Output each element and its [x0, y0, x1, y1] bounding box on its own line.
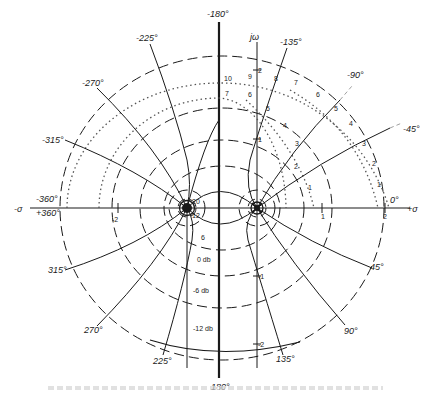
phase-contour-45	[257, 208, 372, 268]
svg-text:3: 3	[295, 140, 299, 147]
phase-label-neg45: -45°	[403, 124, 420, 134]
phase-label-neg90: -90°	[347, 70, 364, 80]
phase-contour-225	[163, 208, 193, 355]
ext-neg90	[340, 86, 352, 100]
phase-label-315: 315°	[48, 265, 67, 275]
svg-text:10: 10	[224, 75, 232, 82]
phase-label-pos360: +360°	[36, 208, 60, 218]
svg-text:7: 7	[225, 90, 229, 97]
ext-neg45	[390, 123, 402, 128]
mag-label-0db: 0 db	[197, 256, 211, 263]
real-tick-2: 2	[383, 213, 387, 220]
dotted-arc-inner	[99, 98, 286, 208]
phase-label-neg270: -270°	[82, 78, 104, 88]
svg-text:5: 5	[266, 105, 270, 112]
mag-label-neg12db: -12 db	[193, 325, 213, 332]
inner-dotted-scale-labels: 1 2 3 4 5 6 7	[225, 90, 312, 191]
sigma-pos-label: +σ	[407, 204, 418, 214]
phase-contour-neg90	[257, 100, 340, 208]
phase-label-0: 0°	[390, 195, 399, 205]
phase-contour-neg225	[150, 44, 190, 208]
phase-label-45: 45°	[370, 262, 384, 272]
dotted-scale-arcs	[67, 83, 389, 208]
real-tick-1: 1	[321, 213, 325, 220]
svg-text:2: 2	[294, 163, 298, 170]
imag-tick-1: 1	[258, 136, 262, 143]
jw-label: jω	[249, 32, 259, 42]
mag-label-neg6db: -6 db	[193, 287, 209, 294]
svg-text:8: 8	[274, 75, 278, 82]
svg-text:4: 4	[283, 122, 287, 129]
phase-label-neg135: -135°	[280, 37, 302, 47]
phase-label-neg360: -360°	[36, 194, 58, 204]
phase-contour-neg45	[257, 128, 390, 208]
mag-label-6: 6	[201, 234, 205, 241]
svg-text:6: 6	[248, 91, 252, 98]
phase-label-270: 270°	[83, 325, 103, 335]
diagram-canvas: -σ +σ jω -2 1 2 2 1 -1 -2 20 12 6 0 db -…	[0, 0, 431, 397]
svg-text:9: 9	[248, 73, 252, 80]
figure-caption-illegible	[48, 386, 383, 390]
real-tick-neg2: -2	[112, 216, 118, 223]
phase-contour-neg270	[97, 88, 187, 208]
s-plane-diagram: -σ +σ jω -2 1 2 2 1 -1 -2 20 12 6 0 db -…	[0, 0, 431, 397]
phase-contour-neg135	[248, 48, 287, 208]
svg-text:6: 6	[316, 91, 320, 98]
mag-contour-neg12db-solid	[150, 340, 300, 352]
mag-label-12: 12	[192, 212, 200, 219]
svg-text:4: 4	[349, 120, 353, 127]
dotted-arc-outer	[67, 83, 389, 208]
imag-tick-neg2: -2	[258, 341, 264, 348]
svg-text:3: 3	[362, 140, 366, 147]
svg-text:1: 1	[308, 184, 312, 191]
phase-contour-135	[247, 208, 283, 355]
svg-text:5: 5	[334, 105, 338, 112]
phase-label-225: 225°	[152, 356, 172, 366]
svg-text:1: 1	[377, 181, 381, 188]
phase-contour-neg135-left	[187, 120, 219, 208]
phase-contour-270	[97, 208, 187, 326]
phase-label-neg225: -225°	[136, 33, 158, 43]
phase-label-neg315: -315°	[42, 135, 64, 145]
dotted-arc-right-inner	[246, 100, 314, 208]
phase-label-135: 135°	[276, 354, 295, 364]
imag-tick-neg1: -1	[258, 273, 264, 280]
phase-label-neg180-top: -180°	[207, 9, 229, 19]
imag-tick-2: 2	[258, 67, 262, 74]
phase-label-90: 90°	[344, 326, 358, 336]
mag-label-20: 20	[192, 198, 200, 205]
svg-text:7: 7	[294, 79, 298, 86]
sigma-neg-label: -σ	[14, 204, 23, 214]
svg-text:2: 2	[372, 160, 376, 167]
